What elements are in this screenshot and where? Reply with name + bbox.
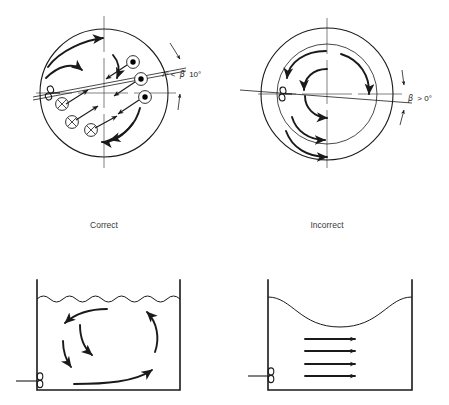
flow-arc-upper-right — [113, 55, 119, 78]
panel-bottom-left — [16, 280, 180, 390]
angle-leader-top — [170, 43, 180, 59]
angle-annotation-left: 7° < β 10° — [161, 70, 201, 79]
caption-correct: Correct — [90, 220, 119, 230]
liquid-surface-rippled — [37, 296, 180, 302]
circulation-inner — [80, 325, 92, 355]
liquid-surface-vortex — [268, 297, 412, 327]
circulation-right — [147, 312, 157, 352]
swirl-arc-inner-top — [304, 69, 327, 90]
angle-leader-bottom — [178, 94, 180, 110]
circulation-left — [63, 341, 71, 367]
swirl-arc-lower-inner — [292, 117, 325, 140]
mixer-angle-figure: 7° < β 10° Correct β > 0° — [0, 0, 449, 405]
panel-top-right: β > 0° Incorrect — [240, 18, 432, 230]
angle-trail-text-right: > 0° — [417, 94, 432, 103]
impeller-glyph-bottom-left — [16, 373, 43, 388]
impeller-glyph — [44, 85, 60, 101]
flow-arc-bottom — [102, 123, 133, 142]
shaft-angle-line-right — [240, 90, 412, 103]
flow-in-marker-3 — [85, 116, 117, 136]
angle-lead-text: 7° < — [161, 70, 176, 79]
circulation-bottom — [74, 370, 152, 384]
caption-incorrect: Incorrect — [310, 220, 344, 230]
angle-trail-text: 10° — [189, 70, 201, 79]
flow-arc-lower — [110, 108, 140, 140]
angle-annotation-right: β > 0° — [407, 94, 432, 103]
flow-out-marker-3 — [118, 91, 151, 114]
beta-symbol-right: β — [407, 94, 413, 103]
tank-outline-left — [37, 280, 180, 390]
panel-bottom-right — [248, 280, 412, 390]
panel-top-left: 7° < β 10° Correct — [33, 16, 201, 230]
beta-symbol: β — [179, 70, 185, 79]
swirl-arc-outer-right — [341, 54, 369, 94]
impeller-glyph-right — [278, 86, 292, 101]
flow-out-marker-1 — [106, 56, 139, 79]
swirl-arc-outer-left — [287, 51, 326, 78]
swirl-arc-inner-bottom — [305, 96, 327, 118]
circulation-top — [65, 309, 107, 323]
flow-arc-mid — [46, 66, 82, 78]
angle-leader-top-right — [402, 70, 404, 85]
flow-arc-outer — [48, 38, 103, 67]
impeller-glyph-bottom-right — [248, 368, 274, 383]
tank-outline-right — [268, 280, 412, 390]
angle-leader-bottom-right — [400, 110, 404, 125]
